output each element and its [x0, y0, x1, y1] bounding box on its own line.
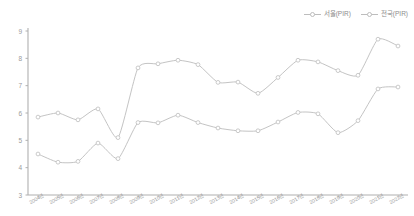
data-point-marker — [196, 121, 200, 125]
data-point-marker — [356, 73, 360, 77]
y-tick-label: 8 — [8, 55, 22, 62]
chart-canvas — [0, 0, 414, 216]
data-point-marker — [56, 160, 60, 164]
data-point-marker — [236, 129, 240, 133]
y-tick-label: 3 — [8, 192, 22, 199]
data-point-marker — [376, 87, 380, 91]
data-point-marker — [336, 131, 340, 135]
data-point-marker — [56, 111, 60, 115]
data-point-marker — [216, 80, 220, 84]
data-point-marker — [396, 85, 400, 89]
data-point-marker — [36, 115, 40, 119]
data-point-marker — [196, 63, 200, 67]
data-point-marker — [316, 60, 320, 64]
data-point-marker — [76, 159, 80, 163]
y-tick-label: 4 — [8, 164, 22, 171]
data-point-marker — [396, 44, 400, 48]
data-point-marker — [296, 111, 300, 115]
data-point-marker — [176, 58, 180, 62]
series-1 — [36, 37, 400, 139]
data-point-marker — [156, 121, 160, 125]
data-point-marker — [116, 157, 120, 161]
data-point-marker — [136, 121, 140, 125]
series-line — [38, 39, 398, 138]
y-tick-label: 5 — [8, 137, 22, 144]
data-point-marker — [316, 112, 320, 116]
data-point-marker — [336, 69, 340, 73]
data-point-marker — [256, 91, 260, 95]
data-point-marker — [216, 126, 220, 130]
y-tick-label: 7 — [8, 82, 22, 89]
data-point-marker — [276, 76, 280, 80]
series-line — [38, 87, 398, 163]
pir-line-chart: 서울(PIR) 전국(PIR) 98765432004년2005년2006년20… — [0, 0, 414, 216]
data-point-marker — [276, 120, 280, 124]
data-point-marker — [36, 152, 40, 156]
data-point-marker — [176, 113, 180, 117]
data-point-marker — [376, 37, 380, 41]
data-point-marker — [96, 107, 100, 111]
data-point-marker — [76, 118, 80, 122]
y-tick-label: 6 — [8, 110, 22, 117]
data-point-marker — [356, 119, 360, 123]
data-point-marker — [136, 66, 140, 70]
data-point-marker — [296, 58, 300, 62]
data-point-marker — [256, 129, 260, 133]
data-point-marker — [96, 141, 100, 145]
plot-area: 98765432004년2005년2006년2007년2008년2009년201… — [0, 0, 414, 216]
data-point-marker — [116, 136, 120, 140]
y-tick-label: 9 — [8, 28, 22, 35]
series-2 — [36, 85, 400, 164]
data-point-marker — [156, 62, 160, 66]
data-point-marker — [236, 80, 240, 84]
